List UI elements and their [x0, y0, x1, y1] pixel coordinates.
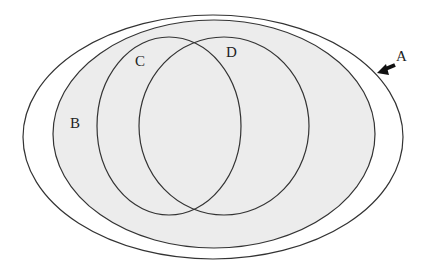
- label-c: C: [135, 54, 145, 69]
- venn-diagram: [0, 0, 430, 267]
- label-a: A: [396, 49, 407, 64]
- label-d: D: [226, 45, 237, 60]
- arrow-icon: [377, 64, 395, 75]
- label-b: B: [70, 116, 80, 131]
